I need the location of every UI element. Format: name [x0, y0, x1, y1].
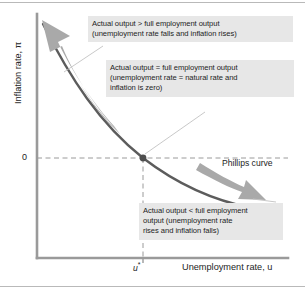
note-below-full-employment: Actual output < full employment output (… — [139, 203, 283, 240]
note-above-full-employment: Actual output > full employment output (… — [88, 16, 293, 42]
leader-line-note-equal — [145, 112, 205, 154]
note-equal-line-1: Actual output = full employment output — [110, 63, 290, 73]
plot-area — [0, 0, 305, 293]
x-axis-title: Unemployment rate, u — [182, 262, 272, 272]
note-below-line-3: rises and inflation falls) — [143, 226, 279, 236]
note-above-line-2: (unemployment rate falls and inflation r… — [92, 29, 289, 39]
equilibrium-point-dot — [140, 155, 147, 162]
note-below-line-1: Actual output < full employment — [143, 206, 279, 216]
note-equal-full-employment: Actual output = full employment output (… — [106, 60, 294, 97]
note-equal-line-2: (unemployment rate = natural rate and — [110, 73, 290, 83]
x-axis-tick-label-natural-rate: u* — [133, 261, 141, 273]
leader-line-note-above — [64, 46, 103, 72]
x-tick-star: * — [138, 261, 141, 268]
y-axis-tick-label-zero: 0 — [22, 152, 27, 162]
note-above-line-1: Actual output > full employment output — [92, 19, 289, 29]
note-below-line-2: output (unemployment rate — [143, 216, 279, 226]
phillips-curve-label: Phillips curve — [222, 158, 273, 168]
note-equal-line-3: inflation is zero) — [110, 83, 290, 93]
y-axis-title: Inflation rate, π — [13, 13, 23, 133]
phillips-curve-figure: Actual output > full employment output (… — [0, 0, 305, 293]
